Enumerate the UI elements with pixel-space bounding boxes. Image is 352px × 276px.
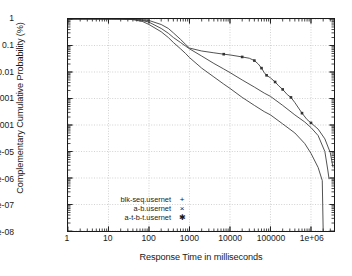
legend-label-2: a-t-b-t.usernet	[125, 213, 171, 222]
series-line-1	[68, 19, 329, 179]
ccdf-chart: Complementary Cumulative Probability (%)…	[0, 0, 352, 276]
legend-label-1: a-b.usernet	[134, 204, 171, 213]
legend-symbol-1: ×	[171, 204, 193, 213]
y-tick-3: 0.001	[0, 94, 14, 102]
legend-entry-2: a-t-b-t.usernet✱	[88, 213, 193, 222]
legend-symbol-0: +	[171, 195, 193, 204]
y-axis-label: Complementary Cumulative Probability (%)	[15, 0, 25, 223]
legend-entry-0: blk-seq.usernet+	[88, 195, 193, 204]
legend-symbol-2: ✱	[171, 213, 193, 222]
y-tick-6: 1e-06	[0, 175, 14, 183]
series-line-2	[68, 19, 333, 167]
y-tick-1: 0.1	[0, 41, 14, 49]
x-tick-6: 1e+06	[282, 234, 342, 243]
y-tick-7: 1e-07	[0, 201, 14, 209]
y-tick-2: 0.01	[0, 68, 14, 76]
chart-legend: blk-seq.usernet+a-b.usernet×a-t-b-t.user…	[88, 195, 193, 223]
y-tick-0: 1	[0, 14, 14, 22]
y-tick-8: 1e-08	[0, 228, 14, 236]
x-axis-label: Response Time in milliseconds	[67, 252, 335, 262]
y-tick-4: 0.0001	[0, 121, 14, 129]
y-tick-5: 1e-05	[0, 148, 14, 156]
legend-label-0: blk-seq.usernet	[120, 195, 171, 204]
legend-entry-1: a-b.usernet×	[88, 204, 193, 213]
